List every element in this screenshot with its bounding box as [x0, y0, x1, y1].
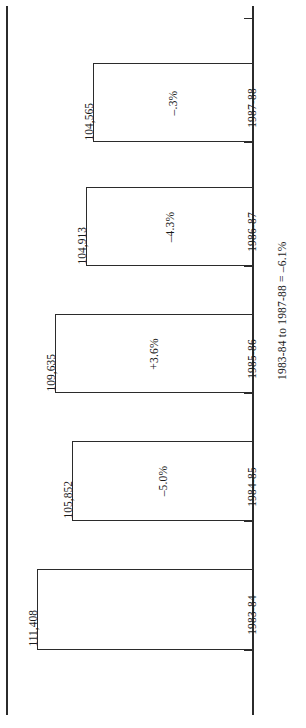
bar-value-label: 104,565	[83, 103, 95, 140]
axis-tick	[244, 521, 253, 522]
category-label-1983-84: 1983-84	[246, 595, 258, 635]
category-label-1985-86: 1985-86	[246, 339, 258, 379]
axis-tick	[244, 187, 253, 188]
bar-chart-figure: –.3%104,565–4.3%104,913+3.6%109,635–5.0%…	[0, 0, 306, 728]
summary-annotation: 1983-84 to 1987-88 = –6.1%	[276, 242, 288, 381]
axis-tick	[244, 649, 253, 650]
bar-value-label: 109,635	[45, 354, 57, 391]
category-label-1984-85: 1984-85	[246, 467, 258, 507]
bar-change-label: –4.3%	[164, 211, 176, 242]
bar-value-label: 105,852	[62, 481, 74, 518]
axis-tick	[244, 63, 253, 64]
bar-change-label: –.3%	[167, 90, 179, 115]
bar-value-label: 111,408	[27, 610, 39, 647]
category-label-1987-88: 1987-88	[246, 88, 258, 128]
bar-change-label: +3.6%	[148, 338, 160, 369]
axis-tick	[244, 441, 253, 442]
bar: +3.6%	[55, 314, 253, 393]
axis-tick	[244, 393, 253, 394]
page-border-rule	[6, 6, 8, 715]
axis-tick	[244, 650, 253, 651]
bar: –.3%	[93, 63, 253, 142]
category-label-1986-87: 1986-87	[246, 212, 258, 252]
bar-value-label: 104,913	[76, 227, 88, 264]
axis-tick	[244, 142, 253, 143]
bar: –5.0%	[72, 441, 253, 521]
axis-tick	[244, 266, 253, 267]
axis-tick	[244, 18, 253, 19]
axis-tick	[244, 314, 253, 315]
bar: –4.3%	[86, 187, 253, 266]
bar-change-label: –5.0%	[157, 466, 169, 497]
bar	[37, 569, 253, 650]
axis-tick	[244, 569, 253, 570]
